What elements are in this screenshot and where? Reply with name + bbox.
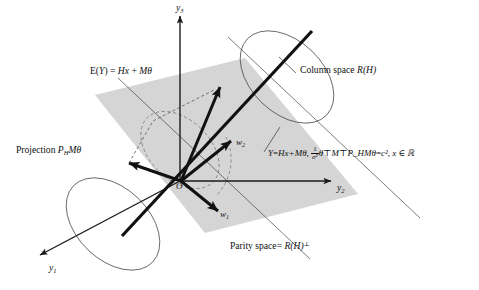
axis-label-y3: y3 <box>176 3 184 15</box>
parity-space-label: Parity space= R(H)⊥ <box>230 241 310 251</box>
cylinder-cap-near <box>48 160 177 288</box>
axis-y1 <box>40 181 180 255</box>
axis-label-y1: y1 <box>49 263 57 275</box>
sigma-fraction: 1σ² <box>311 146 319 161</box>
projection-label: Projection PHMθ <box>16 145 81 157</box>
figure-canvas: y3 y2 y1 w1 w2 O E(Y) = Hx + Mθ Column s… <box>0 0 479 290</box>
origin-label: O <box>176 182 183 191</box>
model-equation-label: Y=Hx+Mθ, 1σ²θ⊤M⊤P_HMθ=c², x ∈ ℝ <box>268 146 414 161</box>
vector-label-w1: w1 <box>220 210 229 220</box>
axis-label-y2: y2 <box>337 183 345 195</box>
column-space-label: Column space R(H) <box>300 65 376 75</box>
expectation-label: E(Y) = Hx + Mθ <box>90 66 152 76</box>
vector-label-w2: w2 <box>236 138 245 148</box>
